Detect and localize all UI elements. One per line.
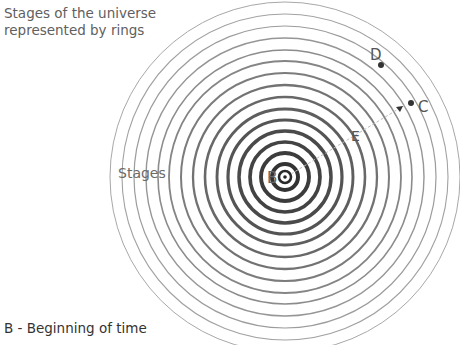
diagram-title: Stages of the universe represented by ri… (4, 5, 156, 39)
title-line-1: Stages of the universe (4, 5, 156, 22)
center-dot (283, 175, 287, 179)
legend: B - Beginning of time (4, 320, 147, 337)
label-e: E (351, 128, 360, 144)
concentric-rings-diagram (0, 0, 460, 345)
point-c (408, 100, 414, 106)
arrow-head-icon (396, 106, 403, 112)
legend-item-b: B - Beginning of time (4, 320, 147, 337)
title-line-2: represented by rings (4, 22, 156, 39)
label-c: C (418, 98, 428, 116)
label-b: B (267, 169, 277, 187)
stages-label: Stages (118, 165, 166, 181)
label-d: D (370, 46, 382, 64)
